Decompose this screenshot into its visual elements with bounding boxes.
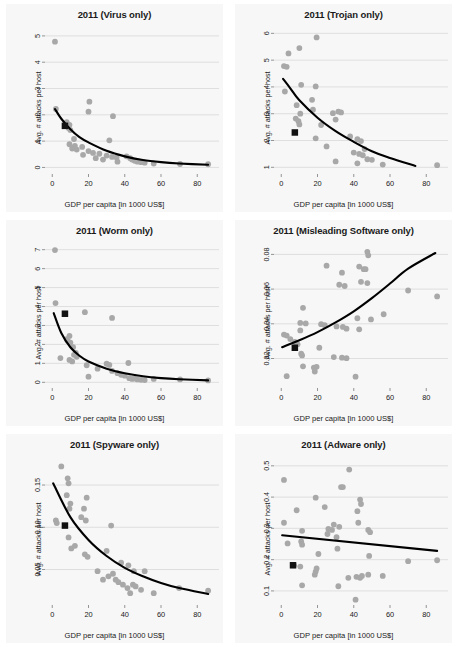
svg-text:7: 7	[34, 248, 43, 252]
data-point	[336, 524, 342, 530]
data-point	[365, 572, 371, 578]
data-point	[151, 590, 157, 596]
svg-text:40: 40	[350, 179, 358, 188]
svg-text:80: 80	[422, 610, 430, 619]
data-point	[78, 514, 84, 520]
data-point	[333, 117, 339, 123]
data-point	[354, 160, 360, 166]
svg-text:20: 20	[313, 610, 321, 619]
panel-adware: 2011 (Adware only) Avg. # attacks per ho…	[229, 430, 458, 647]
data-point	[79, 144, 85, 150]
plot-area: 012345020406080	[0, 0, 229, 216]
data-point	[86, 374, 92, 380]
data-point	[299, 582, 305, 588]
data-point	[85, 554, 91, 560]
svg-text:0.2: 0.2	[263, 555, 272, 565]
svg-text:60: 60	[157, 393, 165, 402]
data-point	[106, 137, 112, 143]
data-point	[335, 546, 341, 552]
data-point	[110, 113, 116, 119]
data-point	[314, 34, 320, 40]
data-point	[72, 543, 78, 549]
data-point	[330, 110, 336, 116]
trend-line	[283, 79, 415, 166]
data-point	[381, 311, 387, 317]
data-point	[142, 377, 148, 383]
data-point	[297, 328, 303, 334]
data-point	[298, 82, 304, 88]
svg-text:20: 20	[313, 393, 321, 402]
data-point	[334, 534, 340, 540]
data-point	[296, 45, 302, 51]
data-point	[125, 562, 131, 568]
data-point	[367, 529, 373, 535]
data-point	[329, 527, 335, 533]
svg-text:0.08: 0.08	[263, 247, 272, 261]
data-point	[100, 157, 106, 163]
data-point	[338, 109, 344, 115]
data-point	[58, 355, 64, 361]
svg-text:20: 20	[313, 179, 321, 188]
svg-text:5: 5	[34, 34, 43, 38]
data-point	[281, 477, 287, 483]
data-point	[309, 97, 315, 103]
data-point	[109, 315, 115, 321]
svg-text:5: 5	[34, 286, 43, 290]
data-point	[95, 568, 101, 574]
svg-text:20: 20	[84, 179, 92, 188]
data-point	[344, 355, 350, 361]
data-point	[54, 520, 60, 526]
data-point	[69, 359, 75, 365]
data-point	[106, 362, 112, 368]
svg-text:0.06: 0.06	[263, 282, 272, 296]
data-point	[353, 374, 359, 380]
data-point	[87, 99, 93, 105]
data-point	[71, 136, 77, 142]
svg-text:2: 2	[34, 342, 43, 346]
svg-text:2: 2	[263, 139, 272, 143]
data-point	[312, 369, 318, 375]
data-point	[296, 122, 302, 128]
data-point	[368, 317, 374, 323]
panel-trojan: 2011 (Trojan only) Avg. # attacks per ho…	[229, 0, 458, 216]
svg-text:2: 2	[34, 113, 43, 117]
data-point	[138, 587, 144, 593]
data-point	[294, 102, 300, 108]
data-point	[110, 571, 116, 577]
svg-text:0.5: 0.5	[263, 461, 272, 471]
data-point	[66, 535, 72, 541]
svg-text:80: 80	[422, 179, 430, 188]
data-point	[380, 573, 386, 579]
svg-text:60: 60	[386, 179, 394, 188]
data-point	[74, 147, 80, 153]
svg-text:1: 1	[34, 139, 43, 143]
data-point	[358, 138, 364, 144]
data-point	[340, 324, 346, 330]
data-point	[100, 577, 106, 583]
data-point	[82, 309, 88, 315]
svg-text:3: 3	[34, 87, 43, 91]
data-point	[358, 501, 364, 507]
data-point	[339, 270, 345, 276]
svg-text:4: 4	[263, 85, 272, 89]
svg-text:40: 40	[121, 179, 129, 188]
plot-area: 0.020.040.060.08020406080	[229, 216, 458, 430]
data-point	[345, 575, 351, 581]
svg-text:4: 4	[34, 60, 43, 64]
svg-text:40: 40	[121, 393, 129, 402]
data-point	[67, 501, 73, 507]
highlight-marker	[62, 522, 69, 529]
panel-spyware: 2011 (Spyware only) Avg. # attacks per h…	[0, 430, 229, 647]
data-point	[364, 280, 370, 286]
data-point	[358, 279, 364, 285]
plot-area: 123456020406080	[229, 0, 458, 216]
svg-text:6: 6	[34, 267, 43, 271]
data-point	[52, 39, 58, 45]
highlight-marker	[292, 344, 299, 351]
svg-text:0: 0	[279, 393, 283, 402]
data-point	[142, 568, 148, 574]
svg-text:0: 0	[34, 165, 43, 169]
data-point	[313, 495, 319, 501]
data-point	[360, 152, 366, 158]
data-point	[313, 135, 319, 141]
